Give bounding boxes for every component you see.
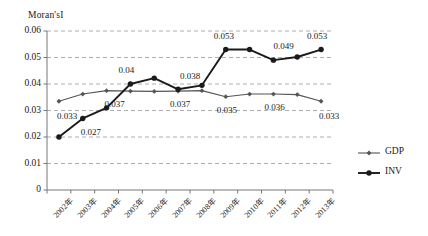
legend-item-inv[interactable]: INV: [385, 166, 402, 176]
chart-container: Moran'sI 00.010.020.030.040.050.06 2002年…: [0, 0, 428, 236]
data-point-label: 0.053: [214, 31, 234, 41]
legend-item-gdp[interactable]: GDP: [385, 146, 404, 156]
data-point-label: 0.037: [170, 99, 190, 109]
y-axis-tick-label: 0.05: [24, 52, 41, 62]
data-point-label: 0.027: [81, 127, 101, 137]
y-axis-tick-label: 0.03: [24, 105, 41, 115]
data-point-label: 0.037: [105, 99, 125, 109]
y-axis-tick-label: 0.01: [24, 158, 41, 168]
y-axis-tick-label: 0.04: [24, 78, 41, 88]
y-axis-tick-label: 0.02: [24, 131, 41, 141]
data-point-label: 0.04: [118, 65, 134, 75]
data-point-label: 0.038: [180, 71, 200, 81]
y-axis-tick-label: 0.06: [24, 25, 41, 35]
data-point-label: 0.033: [319, 111, 339, 121]
data-point-label: 0.033: [57, 111, 77, 121]
data-point-label: 0.049: [273, 41, 293, 51]
data-point-label: 0.036: [264, 102, 284, 112]
data-point-label: 0.053: [307, 31, 327, 41]
data-point-label: 0.035: [217, 105, 237, 115]
y-axis-tick-label: 0: [36, 184, 41, 194]
